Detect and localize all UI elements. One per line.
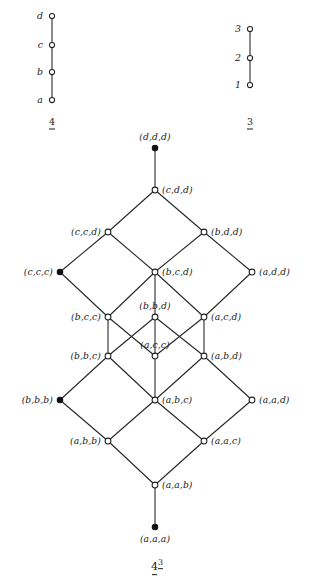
node-label: (a,c,c) [140,340,169,349]
lattice-node-open[interactable] [201,229,207,235]
nodes-layer [49,13,255,529]
cover-edge [155,356,204,400]
node-label: (c,c,d) [71,227,101,236]
lattice-node-open[interactable] [152,187,158,193]
node-label: (b,b,c) [70,351,101,360]
lattice-node-filled[interactable] [152,145,158,151]
node-label: (a,a,c) [211,436,241,445]
lattice-node-open[interactable] [152,397,158,403]
node-label: (c,d,d) [162,185,193,194]
lattice-node-open[interactable] [49,42,54,47]
lattice-node-open[interactable] [249,269,255,275]
lattice-node-open[interactable] [152,314,158,320]
node-label: (a,d,d) [259,267,290,276]
cover-edge [204,272,252,317]
caption-symbol: 4 [49,116,55,127]
lattice-node-open[interactable] [49,97,54,102]
cover-edge [204,356,252,400]
node-label: (a,a,a) [140,534,170,543]
lattice-node-open[interactable] [152,269,158,275]
node-label: (a,b,d) [211,351,242,360]
lattice-node-open[interactable] [105,314,111,320]
cover-edge [108,400,155,441]
node-label: b [37,67,43,76]
node-label: d [37,11,43,20]
cover-edge [108,441,155,485]
node-label: (a,b,b) [70,436,101,445]
lattice-node-open[interactable] [247,26,252,31]
lattice-node-open[interactable] [152,353,158,359]
lattice-node-open[interactable] [247,82,252,87]
node-label: (b,c,d) [162,267,193,276]
lattice-node-open[interactable] [249,397,255,403]
node-label: c [38,40,43,49]
cover-edge [155,441,204,485]
node-label: (a,c,d) [211,312,241,321]
node-label: (b,c,c) [71,312,101,321]
lattice-node-open[interactable] [49,69,54,74]
cover-edge [60,272,108,317]
lattice-node-open[interactable] [105,229,111,235]
lattice-node-open[interactable] [152,482,158,488]
node-label: (b,b,b) [22,395,53,404]
lattice-node-open[interactable] [247,55,252,60]
cover-edge [108,232,155,272]
node-label: (a,a,b) [162,480,193,489]
cover-edge [60,356,108,400]
node-label: (a,a,d) [259,395,290,404]
node-label: (a,b,c) [162,395,192,404]
lattice-node-open[interactable] [201,314,207,320]
cover-edge [108,190,155,232]
lattice-node-open[interactable] [201,438,207,444]
caption-exponent-symbol: 3 [158,559,163,567]
node-label: (b,b,d) [139,301,170,310]
node-label: (c,c,c) [24,267,53,276]
caption-base-symbol: 4 [151,560,158,573]
lattice-node-open[interactable] [49,13,54,18]
node-label: 2 [235,53,241,62]
cover-edge [60,232,108,272]
cover-edge [204,232,252,272]
chain-4-caption: 4 [49,116,55,127]
chain-3-caption: 3 [247,116,253,127]
hasse-diagram-figure: dcba321(d,d,d)(c,d,d)(c,c,d)(b,d,d)(c,c,… [0,0,317,587]
lattice-node-open[interactable] [201,353,207,359]
caption-symbol: 3 [247,116,253,127]
lattice-node-open[interactable] [105,353,111,359]
lattice-node-open[interactable] [105,438,111,444]
lattice-node-filled[interactable] [152,524,158,530]
cover-edge [155,190,204,232]
lattice-caption: 43 [151,559,163,573]
node-label: a [37,95,43,104]
lattice-node-filled[interactable] [57,397,63,403]
cover-edge [108,356,155,400]
diagram-canvas [0,0,317,587]
node-label: 1 [235,80,241,89]
node-label: (b,d,d) [211,227,242,236]
lattice-node-filled[interactable] [57,269,63,275]
cover-edge [155,400,204,441]
node-label: 3 [235,24,241,33]
node-label: (d,d,d) [139,132,170,141]
